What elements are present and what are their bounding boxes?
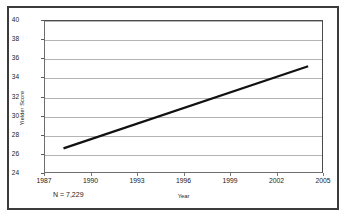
y-tick-label: 38 [0, 36, 19, 43]
x-tick-label: 2005 [303, 177, 343, 184]
y-tick-label: 24 [0, 170, 19, 177]
y-tick-label: 28 [0, 132, 19, 139]
x-tick-label: 1996 [164, 177, 204, 184]
x-tick-mark [91, 173, 92, 176]
y-tick-label: 34 [0, 74, 19, 81]
series-line [63, 66, 308, 148]
x-tick-label: 2002 [257, 177, 297, 184]
x-tick-mark [277, 173, 278, 176]
y-tick-label: 32 [0, 93, 19, 100]
plot-area [44, 20, 323, 173]
x-tick-label: 1993 [117, 177, 157, 184]
x-tick-mark [44, 173, 45, 176]
y-axis-title: Yielder Score [19, 91, 25, 126]
x-axis-title: Year [44, 193, 323, 199]
x-tick-label: 1990 [71, 177, 111, 184]
series-line-chart [45, 21, 322, 172]
x-tick-label: 1999 [210, 177, 250, 184]
y-tick-label: 36 [0, 55, 19, 62]
y-tick-label: 26 [0, 151, 19, 158]
sample-size-annotation: N = 7,229 [53, 191, 84, 198]
y-tick-label: 30 [0, 112, 19, 119]
x-tick-mark [323, 173, 324, 176]
x-tick-mark [137, 173, 138, 176]
y-tick-label: 40 [0, 17, 19, 24]
x-tick-label: 1987 [24, 177, 64, 184]
x-tick-mark [184, 173, 185, 176]
x-tick-mark [230, 173, 231, 176]
chart-figure: Yielder Score 242628303234363840 1987199… [7, 6, 339, 210]
